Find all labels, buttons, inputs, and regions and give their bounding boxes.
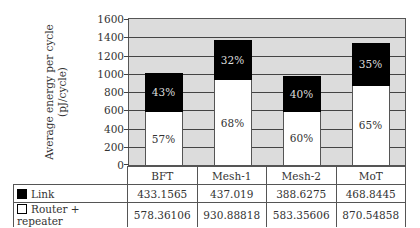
bar-segment-router: 65% <box>352 86 390 165</box>
table-cell: 433.1565 <box>128 185 198 203</box>
legend-router-repeater: Router + repeater <box>14 203 128 228</box>
y-tick-label: 1600 <box>97 13 124 25</box>
bar-mesh-2: 60%40% <box>283 76 321 165</box>
y-tick-label: 200 <box>104 141 124 153</box>
category-mesh-2: Mesh-2 <box>267 167 337 185</box>
bar-segment-link: 43% <box>145 73 183 113</box>
y-axis-label-line2: (pJ/cycle) <box>56 12 69 172</box>
y-tick-mark <box>124 129 129 130</box>
y-tick-label: 600 <box>104 104 124 116</box>
table-cell: 437.019 <box>197 185 267 203</box>
table-row-link: Link 433.1565 437.019 388.6275 468.8445 <box>14 185 406 203</box>
category-bft: BFT <box>128 167 198 185</box>
y-tick-mark <box>124 19 129 20</box>
bar-bft: 57%43% <box>145 73 183 165</box>
y-tick-label: 800 <box>104 86 124 98</box>
y-tick-mark <box>124 56 129 57</box>
table-cell: 930.88818 <box>197 203 267 228</box>
y-axis-label-line1: Average energy per cycle <box>43 12 56 172</box>
plot-area: 57%43%68%32%60%40%65%35% <box>128 18 406 166</box>
legend-link: Link <box>14 185 128 203</box>
y-tick-mark <box>124 147 129 148</box>
y-tick-mark <box>124 110 129 111</box>
category-mesh-1: Mesh-1 <box>197 167 267 185</box>
table-cell: 388.6275 <box>267 185 337 203</box>
y-axis-label: Average energy per cycle (pJ/cycle) <box>43 12 69 172</box>
y-tick-mark <box>124 74 129 75</box>
legend-swatch-black-icon <box>17 189 27 199</box>
y-tick-mark <box>124 92 129 93</box>
table-header-row: BFT Mesh-1 Mesh-2 MoT <box>14 167 406 185</box>
bar-segment-link: 40% <box>283 76 321 111</box>
bar-segment-router: 68% <box>214 80 252 165</box>
gridline <box>129 37 405 38</box>
legend-swatch-white-icon <box>17 204 27 214</box>
category-mot: MoT <box>336 167 406 185</box>
bar-segment-router: 57% <box>145 112 183 165</box>
table-cell: 468.8445 <box>336 185 406 203</box>
table-row-router: Router + repeater 578.36106 930.88818 58… <box>14 203 406 228</box>
data-table: BFT Mesh-1 Mesh-2 MoT Link 433.1565 437.… <box>13 166 406 227</box>
bar-mot: 65%35% <box>352 43 390 165</box>
table-cell: 578.36106 <box>128 203 198 228</box>
y-tick-label: 1200 <box>97 50 124 62</box>
y-tick-mark <box>124 37 129 38</box>
bar-segment-router: 60% <box>283 112 321 165</box>
y-tick-label: 1400 <box>97 31 124 43</box>
y-tick-label: 1000 <box>97 68 124 80</box>
table-cell: 583.35606 <box>267 203 337 228</box>
bar-mesh-1: 68%32% <box>214 40 252 165</box>
table-cell: 870.54858 <box>336 203 406 228</box>
y-tick-label: 400 <box>104 123 124 135</box>
y-tick-mark <box>124 164 129 165</box>
bar-segment-link: 35% <box>352 43 390 86</box>
bar-segment-link: 32% <box>214 40 252 80</box>
